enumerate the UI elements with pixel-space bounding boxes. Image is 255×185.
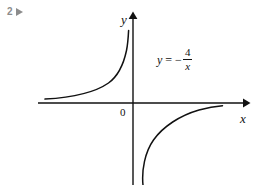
graph-canvas	[0, 0, 255, 185]
equation-fraction: 4 x	[183, 47, 193, 72]
y-axis-label: y	[121, 13, 127, 26]
fraction-denominator: x	[183, 60, 192, 72]
equation-relation: =	[165, 54, 172, 66]
equation-lhs: y	[157, 54, 162, 66]
curve-branch-upper-left	[45, 31, 129, 100]
x-axis-label: x	[240, 112, 246, 125]
math-figure-graph: 2 y x 0 y = − 4 x	[0, 0, 255, 185]
y-axis-arrowhead-icon	[129, 12, 138, 20]
curve-branch-lower-right	[143, 106, 223, 185]
x-axis-arrowhead-icon	[243, 99, 251, 108]
equation-sign: −	[175, 54, 182, 66]
origin-label: 0	[120, 107, 126, 118]
equation-annotation: y = − 4 x	[157, 47, 192, 72]
fraction-numerator: 4	[183, 47, 193, 59]
